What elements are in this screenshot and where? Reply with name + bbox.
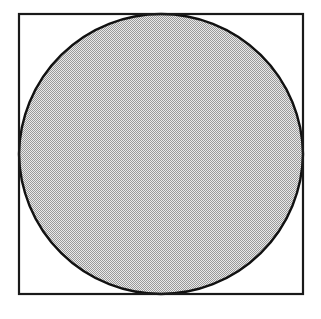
figure-canvas <box>0 0 321 319</box>
geometry-figure-svg <box>0 0 321 319</box>
ogee-shaded-region <box>19 14 303 294</box>
